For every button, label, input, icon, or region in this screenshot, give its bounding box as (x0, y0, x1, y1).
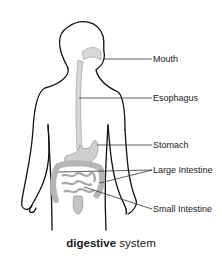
large-intestine-leader-2 (100, 170, 152, 183)
caption-rest: system (116, 237, 156, 249)
rectum-organ (73, 196, 83, 214)
label-large-intestine: Large Intestine (153, 165, 213, 175)
mouth-organ (82, 48, 101, 61)
label-esophagus: Esophagus (153, 93, 198, 103)
label-mouth: Mouth (153, 54, 178, 64)
caption-bold: digestive (66, 237, 116, 249)
label-small-intestine: Small Intestine (153, 204, 212, 214)
label-stomach: Stomach (153, 140, 189, 150)
esophagus-organ (76, 60, 83, 150)
small-intestine-organ (62, 173, 95, 192)
digestive-system-diagram (0, 0, 222, 262)
organs (53, 48, 102, 215)
diagram-caption: digestive system (0, 237, 222, 249)
